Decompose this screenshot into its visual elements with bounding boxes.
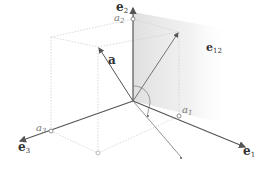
vector-a	[99, 48, 133, 101]
normal-vector-tip	[180, 157, 182, 159]
e3-axis	[20, 101, 133, 141]
angle-marker	[147, 115, 149, 117]
a-label: a	[108, 54, 116, 66]
a13-marker	[96, 151, 100, 155]
e1-label: e1	[243, 145, 255, 159]
a3-label: a3	[36, 123, 46, 135]
a2-label: a2	[114, 13, 124, 25]
a2-marker	[131, 17, 135, 21]
basis-vector-diagram	[0, 0, 268, 171]
e12-label: e12	[206, 42, 222, 55]
a3-marker	[49, 129, 53, 133]
e3-label: e3	[18, 141, 30, 155]
a1-label: a1	[182, 105, 192, 117]
a1-marker	[177, 114, 181, 118]
